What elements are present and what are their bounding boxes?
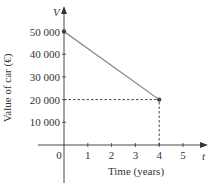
x-tick-label: 2 — [109, 149, 115, 161]
x-axis-arrow-icon — [200, 142, 208, 148]
y-axis-arrow-icon — [61, 6, 67, 14]
x-tick-label: 5 — [180, 149, 186, 161]
y-tick-label: 20 000 — [30, 94, 61, 106]
x-axis-label: Time (years) — [108, 165, 164, 178]
y-tick-label: 30 000 — [30, 71, 61, 83]
x-tick-label: 0 — [56, 149, 62, 161]
ticks: 01234510 00020 00030 00040 00050 000 — [30, 26, 187, 162]
y-tick-label: 10 000 — [30, 116, 61, 128]
x-tick-label: 1 — [85, 149, 91, 161]
y-axis-label: Value of car (€) — [1, 53, 14, 122]
line-chart: Value of car (€) V t 01234510 00020 0003… — [0, 0, 212, 188]
y-axis-symbol: V — [53, 6, 61, 18]
y-tick-label: 50 000 — [30, 26, 61, 38]
x-tick-label: 4 — [156, 149, 162, 161]
data-point — [157, 97, 161, 101]
series — [62, 29, 162, 102]
guides — [64, 100, 159, 145]
x-axis-symbol: t — [202, 150, 206, 162]
value-line — [64, 32, 159, 100]
data-point — [62, 29, 66, 33]
x-tick-label: 3 — [133, 149, 139, 161]
y-tick-label: 40 000 — [30, 48, 61, 60]
chart-svg: Value of car (€) V t 01234510 00020 0003… — [0, 0, 212, 188]
